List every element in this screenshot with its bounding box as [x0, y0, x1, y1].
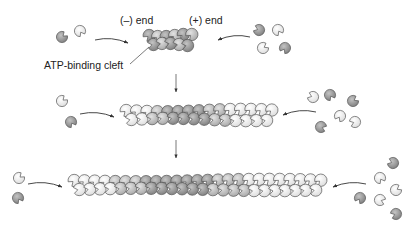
arrow-toward-minus-end-3 — [28, 183, 62, 187]
filament-nucleus — [143, 28, 198, 51]
filament-long-filament — [68, 173, 327, 197]
free-actin-monomer — [354, 192, 365, 203]
free-actin-monomer — [279, 42, 290, 53]
free-actin-monomer — [324, 89, 335, 100]
free-actin-monomer — [257, 42, 268, 53]
filaments-layer — [68, 28, 327, 197]
free-actin-monomer — [74, 25, 85, 36]
free-actin-monomer — [334, 110, 345, 121]
free-actin-monomer — [374, 194, 385, 205]
actin-subunit — [126, 113, 138, 125]
free-actin-monomer — [347, 95, 358, 106]
arrow-toward-minus-end-1 — [95, 39, 128, 43]
free-actin-monomer — [12, 192, 23, 203]
free-actin-monomer — [374, 172, 385, 183]
arrow-toward-minus-end-2 — [80, 113, 114, 117]
free-actin-monomer — [315, 121, 326, 132]
free-actin-monomer — [390, 208, 401, 219]
free-actin-monomer — [56, 95, 67, 106]
free-actin-monomer — [390, 184, 401, 195]
actin-polymerization-diagram — [0, 0, 417, 227]
cleft-pointer-line — [130, 47, 149, 64]
plus-end-label: (+) end — [189, 15, 223, 26]
filament-elongating — [120, 103, 278, 127]
actin-subunit — [73, 183, 85, 195]
atp-binding-cleft-label: ATP-binding cleft — [44, 60, 123, 71]
free-actin-monomer — [13, 172, 24, 183]
arrow-toward-plus-end-3 — [333, 183, 366, 187]
free-actin-monomer — [272, 24, 283, 35]
free-actin-monomer — [307, 91, 318, 102]
minus-end-label: (–) end — [120, 15, 153, 26]
free-actin-monomer — [56, 31, 67, 42]
arrow-toward-plus-end-2 — [283, 111, 316, 115]
arrow-toward-plus-end-1 — [218, 36, 250, 40]
free-actin-monomer — [387, 157, 398, 168]
free-actin-monomer — [253, 24, 264, 35]
free-actin-monomer — [65, 116, 76, 127]
free-actin-monomer — [349, 116, 360, 127]
